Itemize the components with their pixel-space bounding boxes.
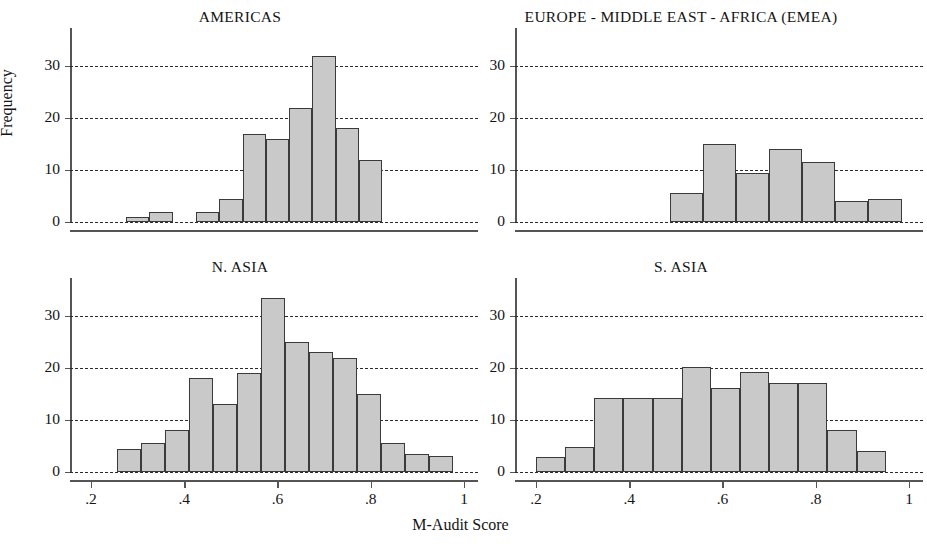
y-tick-label: 0 xyxy=(18,462,60,480)
y-tick-label: 0 xyxy=(463,462,505,480)
x-tick-mark xyxy=(629,481,630,488)
y-tick-mark xyxy=(510,170,515,171)
y-tick-mark xyxy=(65,222,70,223)
histogram-bar xyxy=(835,201,868,222)
histogram-bar xyxy=(827,430,856,472)
histogram-bar xyxy=(769,149,802,222)
x-tick-label: .2 xyxy=(71,490,111,508)
histogram-bar xyxy=(266,139,289,222)
y-tick-mark xyxy=(510,368,515,369)
panel-n-asia: N. ASIA 0102030.2.4.6.81 xyxy=(0,252,480,514)
histogram-bar xyxy=(405,454,429,472)
panel-emea: EUROPE - MIDDLE EAST - AFRICA (EMEA) 010… xyxy=(441,0,921,262)
histogram-bar xyxy=(711,388,740,472)
y-tick-label: 10 xyxy=(463,160,505,178)
y-tick-mark xyxy=(65,66,70,67)
y-tick-mark xyxy=(510,66,515,67)
y-axis-spine xyxy=(515,278,517,472)
y-tick-mark xyxy=(510,222,515,223)
histogram-bar xyxy=(359,160,382,222)
x-tick-label: 1 xyxy=(889,490,927,508)
histogram-bar xyxy=(736,173,769,222)
y-tick-label: 20 xyxy=(18,358,60,376)
y-tick-label: 30 xyxy=(463,306,505,324)
gridline-y xyxy=(515,66,923,67)
x-tick-mark xyxy=(371,481,372,488)
x-tick-mark xyxy=(722,481,723,488)
y-axis-spine xyxy=(70,28,72,222)
x-tick-label: .6 xyxy=(257,490,297,508)
gridline-y xyxy=(515,368,923,369)
x-tick-mark xyxy=(816,481,817,488)
x-tick-label: .8 xyxy=(351,490,391,508)
histogram-bar xyxy=(117,449,141,472)
panel-title-emea: EUROPE - MIDDLE EAST - AFRICA (EMEA) xyxy=(441,8,921,26)
histogram-bar xyxy=(357,394,381,472)
histogram-bar xyxy=(868,199,901,222)
x-axis-spine xyxy=(70,230,478,232)
y-tick-label: 0 xyxy=(18,212,60,230)
y-tick-mark xyxy=(65,118,70,119)
y-tick-label: 30 xyxy=(18,56,60,74)
histogram-bar xyxy=(312,56,335,222)
y-tick-mark xyxy=(510,420,515,421)
x-tick-mark xyxy=(277,481,278,488)
histogram-bar xyxy=(802,162,835,222)
gridline-y xyxy=(70,66,478,67)
y-tick-label: 20 xyxy=(463,358,505,376)
y-tick-label: 10 xyxy=(18,410,60,428)
y-tick-label: 10 xyxy=(18,160,60,178)
y-tick-mark xyxy=(65,368,70,369)
gridline-y xyxy=(515,316,923,317)
y-tick-label: 10 xyxy=(463,410,505,428)
y-axis-spine xyxy=(515,28,517,222)
histogram-bar xyxy=(798,383,827,472)
histogram-bar xyxy=(141,443,165,472)
histogram-bar xyxy=(285,342,309,472)
panel-s-asia: S. ASIA 0102030.2.4.6.81 xyxy=(441,252,921,514)
gridline-y xyxy=(515,118,923,119)
histogram-bar xyxy=(703,144,736,222)
gridline-y xyxy=(515,222,923,223)
x-tick-label: .4 xyxy=(609,490,649,508)
plot-area-americas: 0102030 xyxy=(70,40,478,222)
histogram-bar xyxy=(219,199,242,222)
x-tick-label: .6 xyxy=(702,490,742,508)
x-tick-label: .4 xyxy=(164,490,204,508)
y-tick-mark xyxy=(65,420,70,421)
plot-area-emea: 0102030 xyxy=(515,40,923,222)
histogram-bar xyxy=(126,217,149,222)
x-tick-mark xyxy=(91,481,92,488)
x-tick-label: .2 xyxy=(516,490,556,508)
histogram-bar xyxy=(165,430,189,472)
y-tick-mark xyxy=(510,316,515,317)
plot-area-n-asia: 0102030.2.4.6.81 xyxy=(70,290,478,472)
histogram-bar xyxy=(196,212,219,222)
histogram-bar xyxy=(565,447,594,472)
y-tick-label: 20 xyxy=(18,108,60,126)
histogram-bar xyxy=(594,398,623,472)
y-tick-mark xyxy=(510,118,515,119)
y-tick-label: 0 xyxy=(463,212,505,230)
histogram-bar xyxy=(536,457,565,472)
x-tick-mark xyxy=(536,481,537,488)
y-tick-label: 20 xyxy=(463,108,505,126)
y-axis-spine xyxy=(70,278,72,472)
x-tick-mark xyxy=(184,481,185,488)
gridline-y xyxy=(70,118,478,119)
x-axis-spine xyxy=(515,480,923,482)
panel-title-s-asia: S. ASIA xyxy=(441,258,921,276)
y-tick-mark xyxy=(65,316,70,317)
x-axis-label: M-Audit Score xyxy=(0,516,921,534)
x-tick-label: .8 xyxy=(796,490,836,508)
y-tick-mark xyxy=(510,472,515,473)
y-tick-label: 30 xyxy=(18,306,60,324)
plot-area-s-asia: 0102030.2.4.6.81 xyxy=(515,290,923,472)
histogram-bar xyxy=(149,212,172,222)
panel-title-americas: AMERICAS xyxy=(0,8,480,26)
x-axis-spine xyxy=(515,230,923,232)
histogram-bar xyxy=(289,108,312,222)
histogram-bar xyxy=(857,451,886,472)
histogram-bar xyxy=(189,378,213,472)
